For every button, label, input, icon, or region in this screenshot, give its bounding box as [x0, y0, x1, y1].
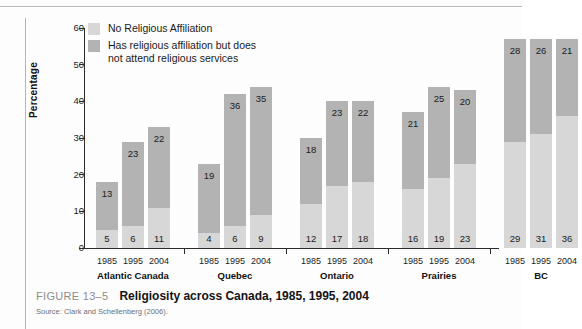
y-tick-mark — [79, 211, 84, 212]
bar-value-label: 17 — [326, 233, 348, 244]
bar-value-label: 23 — [454, 233, 476, 244]
bar-stack: 2116 — [402, 112, 424, 248]
bar-stack: 2218 — [352, 101, 374, 248]
bar-value-label: 16 — [402, 233, 424, 244]
x-tick-label-year: 2004 — [448, 256, 482, 266]
bar-value-label: 19 — [428, 233, 450, 244]
x-group-label: Quebec — [178, 270, 292, 281]
y-tick-mark — [79, 28, 84, 29]
bar-segment-no-affiliation: 36 — [556, 116, 578, 248]
bar-value-label: 36 — [224, 100, 246, 111]
bar-stack: 2023 — [454, 90, 476, 248]
bar-value-label: 18 — [300, 144, 322, 155]
x-tick-label-year: 2004 — [346, 256, 380, 266]
x-group-label: Prairies — [382, 270, 496, 281]
bar-value-label: 22 — [148, 133, 170, 144]
bar-stack: 2136 — [556, 39, 578, 248]
legend-label-1: Has religious affiliation but does not a… — [108, 39, 256, 64]
bar-segment-affiliated-non-attending: 22 — [352, 101, 374, 182]
bar-stack: 2631 — [530, 39, 552, 248]
bar-segment-affiliated-non-attending: 18 — [300, 138, 322, 204]
bar-stack: 194 — [198, 164, 220, 248]
figure-title: Religiosity across Canada, 1985, 1995, 2… — [119, 289, 368, 303]
x-group-label: BC — [484, 270, 582, 281]
bar-value-label: 29 — [504, 233, 526, 244]
bar-value-label: 6 — [122, 233, 144, 244]
bar-segment-affiliated-non-attending: 19 — [198, 164, 220, 234]
bar-value-label: 28 — [504, 45, 526, 56]
x-tick-label-year: 2004 — [550, 256, 582, 266]
bar-value-label: 18 — [352, 233, 374, 244]
bar-value-label: 31 — [530, 233, 552, 244]
bar-value-label: 11 — [148, 233, 170, 244]
legend-item-has-affiliation-no-attend: Has religious affiliation but does not a… — [88, 39, 256, 64]
bar-value-label: 19 — [198, 170, 220, 181]
bar-value-label: 20 — [454, 96, 476, 107]
bar-stack: 2317 — [326, 101, 348, 248]
bar-segment-affiliated-non-attending: 36 — [224, 94, 246, 226]
bar-value-label: 12 — [300, 233, 322, 244]
figure-number: FIGURE 13–5 — [36, 290, 108, 302]
x-group-label: Atlantic Canada — [76, 270, 190, 281]
bar-value-label: 21 — [556, 45, 578, 56]
bar-value-label: 6 — [224, 233, 246, 244]
bar-value-label: 23 — [122, 148, 144, 159]
x-group-separator-tick — [388, 249, 389, 254]
bar-value-label: 26 — [530, 45, 552, 56]
x-group-label: Ontario — [280, 270, 394, 281]
legend-swatch-icon-dark — [88, 40, 100, 52]
bar-stack: 1812 — [300, 138, 322, 248]
bar-segment-no-affiliation: 11 — [148, 208, 170, 248]
figure-caption: FIGURE 13–5 Religiosity across Canada, 1… — [36, 289, 369, 303]
bar-value-label: 13 — [96, 188, 118, 199]
bar-stack: 366 — [224, 94, 246, 248]
y-tick-mark — [79, 248, 84, 249]
bar-value-label: 4 — [198, 233, 220, 244]
bar-stack: 359 — [250, 87, 272, 248]
bar-segment-no-affiliation: 19 — [428, 178, 450, 248]
bars-layer: 1352362211194366359181223172218211625192… — [0, 0, 522, 282]
y-tick-mark — [79, 138, 84, 139]
legend-item-no-religious-affiliation: No Religious Affiliation — [88, 22, 256, 35]
bar-value-label: 25 — [428, 93, 450, 104]
x-group-separator-tick — [286, 249, 287, 254]
bar-value-label: 23 — [326, 107, 348, 118]
bar-segment-affiliated-non-attending: 25 — [428, 87, 450, 179]
bar-segment-no-affiliation: 17 — [326, 186, 348, 248]
bar-value-label: 22 — [352, 107, 374, 118]
bar-segment-no-affiliation: 18 — [352, 182, 374, 248]
bar-segment-no-affiliation: 9 — [250, 215, 272, 248]
bar-value-label: 5 — [96, 233, 118, 244]
bar-value-label: 36 — [556, 233, 578, 244]
figure-source: Source: Clark and Schellenberg (2006). — [36, 307, 168, 316]
bar-segment-affiliated-non-attending: 20 — [454, 90, 476, 163]
bar-segment-no-affiliation: 12 — [300, 204, 322, 248]
bar-segment-no-affiliation: 23 — [454, 164, 476, 248]
bar-stack: 236 — [122, 142, 144, 248]
bar-segment-affiliated-non-attending: 13 — [96, 182, 118, 230]
bar-segment-no-affiliation: 6 — [224, 226, 246, 248]
bar-segment-affiliated-non-attending: 22 — [148, 127, 170, 208]
bar-segment-no-affiliation: 6 — [122, 226, 144, 248]
bar-segment-affiliated-non-attending: 26 — [530, 39, 552, 134]
bar-segment-no-affiliation: 29 — [504, 142, 526, 248]
bar-segment-affiliated-non-attending: 23 — [326, 101, 348, 185]
bar-stack: 135 — [96, 182, 118, 248]
x-tick-label-year: 2004 — [142, 256, 176, 266]
bar-stack: 2829 — [504, 39, 526, 248]
bar-value-label: 21 — [402, 118, 424, 129]
bar-stack: 2519 — [428, 87, 450, 248]
bar-segment-affiliated-non-attending: 21 — [402, 112, 424, 189]
chart-legend: No Religious Affiliation Has religious a… — [88, 22, 256, 68]
bar-segment-no-affiliation: 31 — [530, 134, 552, 248]
bar-segment-affiliated-non-attending: 28 — [504, 39, 526, 142]
y-tick-mark — [79, 64, 84, 65]
bar-value-label: 9 — [250, 233, 272, 244]
chart-plot-area: Percentage 0102030405060 135236221119436… — [0, 0, 522, 282]
x-group-separator-tick — [490, 249, 491, 254]
bar-segment-affiliated-non-attending: 35 — [250, 87, 272, 215]
y-tick-mark — [79, 174, 84, 175]
x-group-separator-tick — [184, 249, 185, 254]
bar-stack: 2211 — [148, 127, 170, 248]
y-tick-mark — [79, 101, 84, 102]
